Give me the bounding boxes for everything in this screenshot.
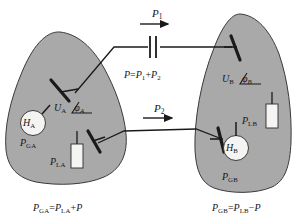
bus-a-voltage-label: UA φA (54, 103, 84, 115)
generator-b-label: HB (226, 143, 238, 155)
generator-a-power-label: PGA (20, 138, 36, 150)
load-b-power-label: PLB (242, 116, 257, 128)
equation-area-a-balance: PGA=PLA+P (33, 203, 82, 215)
area-b-region (195, 14, 291, 192)
load-a-power-label: PLA (50, 157, 66, 169)
generator-b-power-label: PGB (222, 172, 238, 184)
diagram-canvas (0, 0, 296, 224)
series-capacitor-icon (150, 36, 156, 58)
tie-line-lower-flow-label: P2 (154, 103, 165, 116)
bus-b-voltage-label: UB φB (222, 74, 252, 86)
generator-a-label: HA (23, 118, 35, 130)
power-system-diagram: P1 P2 P=P1+P2 UA φA UB φB HA HB PGA PGB … (0, 0, 296, 224)
tie-line-upper-flow-label: P1 (152, 8, 163, 21)
equation-area-b-balance: PGB=PLB−P (212, 203, 261, 215)
equation-total-power: P=P1+P2 (124, 70, 161, 82)
